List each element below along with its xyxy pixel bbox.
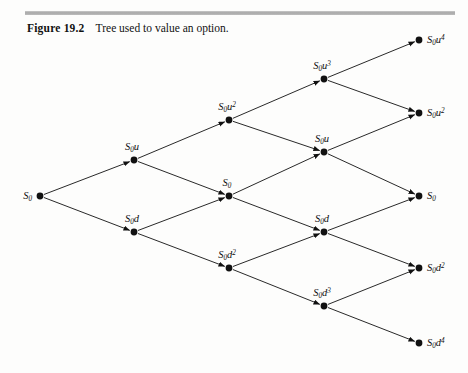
tree-edge-down (328, 80, 415, 111)
tree-node-t4m (416, 193, 423, 200)
tree-node-u3 (321, 76, 328, 83)
node-label-u1: S0u (125, 141, 139, 154)
tree-node-d2 (226, 265, 233, 272)
node-label-u2: S0u2 (218, 101, 236, 114)
tree-node-n0 (37, 193, 44, 200)
node-label-d1: S0d (125, 213, 139, 226)
tree-node-t4d4 (416, 340, 423, 347)
node-label-t4d2: S0d2 (427, 262, 445, 275)
tree-edge-up (138, 122, 225, 159)
tree-node-layer (37, 37, 423, 347)
tree-node-dm3 (321, 229, 328, 236)
tree-edge-down (328, 233, 415, 266)
tree-edge-up (138, 198, 225, 231)
tree-edge-down (138, 161, 225, 194)
node-label-t4u2: S0u2 (427, 107, 445, 120)
tree-edge-up (328, 198, 415, 231)
tree-node-t4u2 (416, 110, 423, 117)
node-label-d2: S0d2 (218, 249, 236, 262)
node-label-t4u4: S0u4 (427, 34, 445, 47)
tree-edge-down (44, 198, 130, 231)
tree-node-u1 (131, 157, 138, 164)
tree-edge-up (233, 81, 320, 119)
tree-edge-down (328, 308, 415, 342)
tree-edge-up (328, 270, 415, 305)
node-label-m2: S0 (223, 177, 232, 190)
tree-edge-up (328, 42, 415, 78)
tree-node-d3 (321, 303, 328, 310)
tree-node-u2 (226, 117, 233, 124)
node-label-n0: S0 (23, 190, 32, 203)
node-label-um3: S0u (315, 133, 329, 146)
tree-edge-layer (44, 42, 415, 342)
node-label-u3: S0u3 (313, 60, 331, 73)
tree-node-um3 (321, 149, 328, 156)
tree-edge-down (138, 233, 225, 266)
tree-edge-down (328, 154, 415, 194)
node-label-d3: S0d3 (313, 287, 331, 300)
tree-edge-up (44, 162, 130, 195)
binomial-tree-diagram (0, 0, 468, 373)
tree-node-t4d2 (416, 265, 423, 272)
node-label-dm3: S0d (315, 213, 329, 226)
tree-edge-down (233, 197, 320, 230)
tree-edge-down (233, 121, 320, 150)
figure-page: Figure 19.2Tree used to value an option.… (0, 0, 468, 373)
node-label-t4d4: S0d4 (427, 337, 445, 350)
tree-node-m2 (226, 193, 233, 200)
tree-edge-down (233, 270, 320, 305)
tree-node-d1 (131, 229, 138, 236)
node-label-t4m: S0 (427, 190, 436, 203)
tree-node-t4u4 (416, 37, 423, 44)
tree-edge-up (328, 115, 415, 151)
tree-edge-up (233, 154, 320, 194)
tree-edge-up (233, 234, 320, 267)
